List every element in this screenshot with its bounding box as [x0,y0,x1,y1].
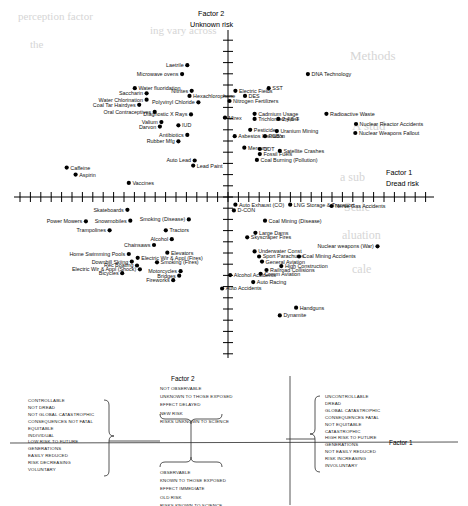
vertical-axis-title-line2: Unknown risk [190,20,234,29]
data-point-marker [187,94,191,98]
data-point: Nuclear weapons (War) [317,243,379,249]
data-point-label: Coal Mining (Disease) [269,218,322,224]
data-point-marker [127,181,131,185]
data-point-marker [330,204,334,208]
data-point-marker [180,72,184,76]
factor-definition-legend: Factor 2 Factor 1 NOT OBSERVABLEUNKNOWN … [0,368,468,506]
plot-axes [14,30,434,358]
data-point-label: Aspirin [79,172,95,178]
data-point-label: Caffeine [70,165,90,171]
data-point-marker [232,208,236,212]
data-point-marker [228,273,232,277]
data-point-label: Saccharin [119,90,143,96]
data-point-label: Fireworks [146,277,170,283]
data-point-label: Smoking (Disease) [140,216,186,222]
data-point: Polyvinyl Chloride [152,99,201,105]
legend-entry: VOLUNTARY [28,467,56,472]
data-point-marker [185,63,189,67]
data-point: IUD [176,122,191,128]
legend-entry: NOT OBSERVABLE [160,386,202,391]
data-point-marker [145,91,149,95]
legend-factor1-title: Factor 1 [389,439,413,446]
horizontal-axis-title-line2: Dread risk [386,179,419,188]
data-point-label: IUD [182,122,191,128]
data-point-marker [196,100,200,104]
legend-factor2-lower-list: OBSERVABLEKNOWN TO THOSE EXPOSEDEFFECT I… [160,470,226,506]
data-point-marker [223,116,227,120]
legend-entry: CONTROLLABLE [28,398,65,403]
data-point-label: Coal Tar Hairdyes [93,102,136,108]
brace-factor2-lower [160,457,222,467]
data-point: Auto Lead [167,157,197,163]
data-point-marker [354,122,358,126]
data-point-marker [176,123,180,127]
data-point-label: Trampolines [77,227,107,233]
data-point: Coal Mining Accidents [297,253,356,259]
data-point-marker [189,112,193,116]
data-point-marker [288,203,292,207]
data-point-marker [65,166,69,170]
legend-entry: RISKS UNKNOWN TO SCIENCE [160,419,229,424]
data-point-label: DNA Technology [312,71,352,77]
data-point-label: Radioactive Waste [330,111,375,117]
legend-entry: RISK INCREASING [325,456,366,461]
legend-entry: CONSEQUENCES FATAL [325,415,379,420]
legend-factor1-left-list: CONTROLLABLENOT DREADNOT GLOBAL CATASTRO… [28,398,94,472]
data-point: Nitrogen Fertilizers [227,98,278,104]
data-point: Hexachlorophene [187,93,235,99]
data-point-marker [227,99,231,103]
data-point-label: Bicycles [99,270,119,276]
legend-entry: EQUITABLE [28,426,54,431]
data-point-label: Power Mowers [47,218,83,224]
data-point: Snowmobiles [95,218,133,224]
data-point: Radioactive Waste [324,111,374,117]
data-point: SST [267,85,284,91]
data-point-marker [155,260,159,264]
data-point-label: Auto Racing [257,279,286,285]
data-point-marker [253,112,257,116]
data-point: Microwave ovens [137,71,184,77]
data-point: Nerve Gas Accidents [330,203,386,209]
legend-entry: RISK DECREASING [28,460,71,465]
legend-entry: NOT EQUITABLE [325,422,362,427]
data-point-marker [306,72,310,76]
data-points-layer: LaetrileMicrowave ovensDNA TechnologyWat… [47,62,424,318]
legend-factor1-right-list: UNCONTROLLABLEDREADGLOBAL CATASTROPHICCO… [325,394,380,468]
data-point-label: Rubber Mfg [147,138,175,144]
data-point-marker [74,173,78,177]
data-point: Coal Burning (Pollution) [255,157,318,163]
data-point-label: Home Swimming Pools [69,251,125,257]
data-point-label: Mirex [229,115,242,121]
data-point-marker [233,134,237,138]
legend-entry: GLOBAL CATASTROPHIC [325,408,380,413]
data-point-label: Handguns [300,305,325,311]
data-point-label: Alcohol Accidents [234,272,277,278]
data-point-marker [278,313,282,317]
data-point-label: Laetrile [166,62,184,68]
legend-entry: KNOWN TO THOSE EXPOSED [160,478,226,483]
data-point-label: Coal Mining Accidents [303,253,356,259]
data-point-marker [248,128,252,132]
data-point-label: Nitrogen Fertilizers [233,98,279,104]
data-point-label: Nuclear Weapons Fallout [359,130,420,136]
data-point-label: Darvon [139,124,156,130]
vertical-axis-title-line1: Factor 2 [198,9,224,18]
data-point: Smoking (Fires) [155,259,199,265]
legend-entry: NOT DREAD [28,405,55,410]
legend-entry: NOT GLOBAL CATASTROPHIC [28,412,94,417]
data-point: Auto Accidents [220,285,262,291]
legend-entry: NOT EASILY REDUCED [325,449,376,454]
data-point-label: Nuclear Reactor Accidents [360,121,424,127]
data-point-marker [253,249,257,253]
legend-entry: UNKNOWN TO THOSE EXPOSED [160,394,233,399]
data-point: Aspirin [74,172,96,178]
data-point-marker [170,237,174,241]
data-point-label: Smoking (Fires) [161,259,199,265]
data-point-label: Nitrites [171,88,188,94]
data-point: Auto Racing [251,279,286,285]
legend-factor2-upper-list: NOT OBSERVABLEUNKNOWN TO THOSE EXPOSEDEF… [160,386,233,424]
data-point-label: Vaccines [132,180,154,186]
data-point: Nuclear Reactor Accidents [354,121,424,127]
data-point-label: Dynamite [283,312,306,318]
data-point-marker [353,131,357,135]
